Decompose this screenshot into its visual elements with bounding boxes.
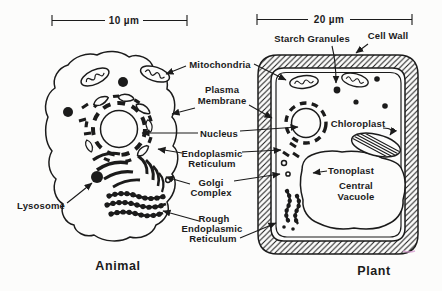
lysosome-body [63, 107, 73, 117]
label-rough-er: Reticulum [189, 233, 236, 244]
lysosome-body [118, 77, 128, 87]
plant-rough-endoplasmic-reticulum [282, 191, 299, 231]
animal-nucleus [101, 111, 138, 148]
label-central-vacuole: Vacuole [338, 191, 375, 202]
chloroplast-pointer [383, 128, 391, 135]
animal-cell [46, 51, 178, 240]
plant-scale-label: 20 µm [314, 14, 345, 25]
label-central-vacuole: Central [339, 180, 373, 191]
plant-scale-bar: 20 µm [257, 14, 412, 25]
label-plasma-membrane: Plasma [205, 84, 240, 95]
label-golgi-complex: Complex [190, 187, 232, 198]
plant-caption: Plant [357, 264, 391, 278]
lysosome-body [91, 171, 103, 183]
plant-mitochondrion [289, 74, 319, 90]
label-starch-granules: Starch Granules [274, 33, 350, 44]
plant-cell [258, 55, 418, 254]
cell-diagram-figure: 10 µm 20 µm [0, 0, 442, 291]
label-plasma-membrane: Membrane [198, 95, 247, 106]
label-tonoplast: Tonoplast [328, 165, 375, 176]
animal-caption: Animal [95, 259, 140, 273]
mitochondria-pointer-animal [166, 66, 186, 74]
label-chloroplast: Chloroplast [331, 118, 386, 129]
label-nucleus: Nucleus [200, 128, 238, 139]
plant-nucleus [292, 109, 321, 138]
figure-canvas: 10 µm 20 µm [0, 0, 442, 291]
plasma-membrane-pointer-animal [172, 108, 195, 114]
label-mitochondria: Mitochondria [189, 59, 251, 70]
label-lysosome: Lysosome [17, 200, 65, 211]
label-endoplasmic-reticulum: Reticulum [188, 158, 235, 169]
golgi-pointer-plant [234, 174, 280, 181]
rough-er-pointer-animal [163, 211, 199, 221]
cell-wall-pointer [356, 44, 368, 53]
animal-scale-bar: 10 µm [52, 15, 187, 26]
plant-mitochondrion [340, 71, 369, 90]
label-cell-wall: Cell Wall [368, 30, 409, 41]
animal-scale-label: 10 µm [109, 15, 140, 26]
